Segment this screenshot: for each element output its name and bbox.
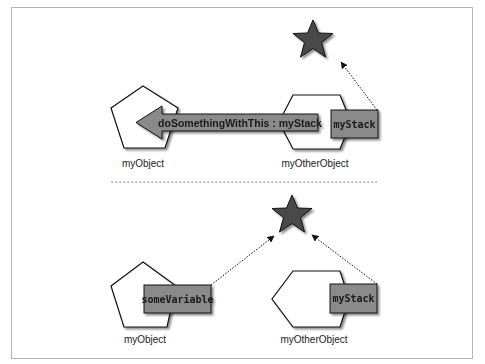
my-other-object-label: myOtherObject bbox=[281, 158, 348, 169]
property-box-somevariable: someVariable bbox=[141, 285, 213, 313]
reference-arrow bbox=[341, 62, 377, 110]
bottom-panel: someVariable myStack myObject myOtherObj… bbox=[111, 195, 377, 345]
message-arrow-label: doSomethingWithThis : myStack bbox=[158, 117, 322, 129]
star-icon bbox=[272, 195, 312, 232]
left-property-box-label: someVariable bbox=[141, 294, 213, 305]
my-other-object-label: myOtherObject bbox=[280, 334, 347, 345]
star-icon bbox=[293, 20, 333, 57]
right-property-box-label: myStack bbox=[332, 293, 374, 304]
object-reference-diagram: doSomethingWithThis : myStack myStack my… bbox=[0, 0, 485, 364]
my-object-label: myObject bbox=[124, 334, 166, 345]
property-box-mystack: myStack bbox=[331, 110, 378, 138]
reference-arrow-left bbox=[211, 236, 274, 285]
property-box-mystack: myStack bbox=[330, 284, 377, 313]
property-box-label: myStack bbox=[333, 119, 375, 130]
top-panel: doSomethingWithThis : myStack myStack my… bbox=[111, 20, 378, 169]
my-object-label: myObject bbox=[122, 158, 164, 169]
